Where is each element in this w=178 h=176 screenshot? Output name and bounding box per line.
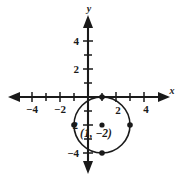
point-top <box>99 94 105 100</box>
y-axis-name-label: y <box>86 3 92 14</box>
graph-canvas: −4 −2 2 4 4 2 2 −4 x y (1, −2) <box>0 0 178 176</box>
y-tick-label-neg4: −4 <box>67 147 79 159</box>
x-axis-left-arrow-icon <box>8 92 20 102</box>
x-axis-right-arrow-icon <box>158 92 170 102</box>
y-tick-label-pos2: 2 <box>74 63 80 75</box>
y-tick-label-pos4: 4 <box>74 35 80 47</box>
coordinate-plane-figure: −4 −2 2 4 4 2 2 −4 x y (1, −2) <box>0 0 178 176</box>
x-tick-label-neg4: −4 <box>26 103 38 115</box>
x-tick-label-pos2: 2 <box>115 104 121 116</box>
x-tick-label-pos4: 4 <box>143 103 149 115</box>
y-axis-down-arrow-icon <box>83 161 93 174</box>
x-axis-name-label: x <box>169 85 175 96</box>
point-bottom <box>99 150 105 156</box>
point-right <box>127 122 133 128</box>
y-tick-label-neg2: 2 <box>73 119 79 131</box>
x-tick-label-neg2: −2 <box>54 103 66 115</box>
y-axis-up-arrow-icon <box>83 15 93 28</box>
center-point-label: (1, −2) <box>80 127 112 140</box>
